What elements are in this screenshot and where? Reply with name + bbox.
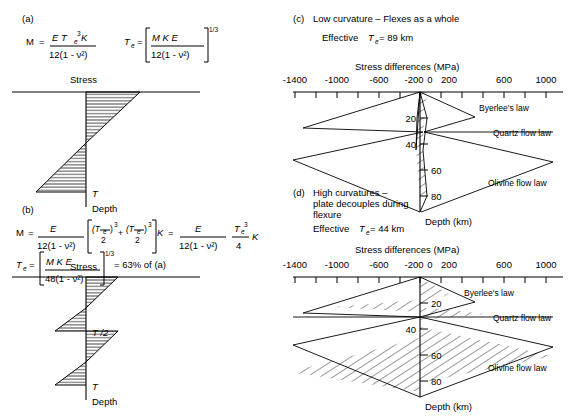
eq-a1-equals: = bbox=[39, 36, 45, 47]
eq-a2-equals: = bbox=[137, 36, 143, 47]
panel-d-quartz-label: Quartz flow law bbox=[493, 313, 552, 323]
panel-d-title-line3: flexure bbox=[313, 209, 342, 220]
eq-b1-frac2-den: 12(1 - ν²) bbox=[179, 240, 218, 251]
eq-b1-frac3-num-sub: e bbox=[241, 228, 245, 235]
eq-b1-term1-sub: e bbox=[103, 228, 107, 235]
eq-b1-frac1-den: 12(1 - ν²) bbox=[37, 240, 76, 251]
panel-d-axis-title: Stress differences (MPa) bbox=[355, 244, 459, 255]
panel-c-quartz-label: Quartz flow law bbox=[493, 128, 552, 138]
eq-a2-denominator: 12(1 - ν²) bbox=[151, 49, 190, 60]
eq-b1-frac2-num: E bbox=[195, 223, 202, 234]
panel-b-depth-label: Depth bbox=[92, 396, 117, 407]
panel-d-subtitle-value: = 44 km bbox=[370, 223, 404, 234]
panel-a-thickness-label: T bbox=[92, 188, 99, 199]
eq-b1-term2-sub: e bbox=[137, 228, 141, 235]
panel-a-stress-label: Stress bbox=[70, 74, 97, 85]
panel-c-depth-axis-label: Depth (km) bbox=[425, 216, 472, 227]
panel-c-tension-upper-envelope bbox=[303, 92, 423, 132]
panel-c-tag: (c) bbox=[293, 13, 304, 24]
eq-b1-term2-pow: 3 bbox=[148, 221, 152, 228]
panel-d-xtick-6: -200 bbox=[404, 259, 423, 270]
panel-d-title-line1: High curvatures – bbox=[313, 187, 388, 198]
panel-c-subtitle-symbol: T bbox=[368, 32, 375, 43]
panel-c-ytick-20: 20 bbox=[405, 113, 416, 124]
eq-a1-denominator: 12(1 - ν²) bbox=[49, 49, 88, 60]
eq-b1-term1-close: ) bbox=[110, 224, 113, 234]
panel-a-equation-2: T e = M K E 12(1 - ν²) 1/3 bbox=[124, 26, 218, 62]
panel-b-stress-label: Stress bbox=[70, 261, 97, 272]
panel-b-half-thickness-label: T /2 bbox=[92, 327, 109, 338]
eq-b1-frac1-num: E bbox=[50, 223, 57, 234]
eq-a1-num-tail: K bbox=[81, 32, 88, 43]
panel-c-subtitle-value: = 89 km bbox=[379, 32, 413, 43]
figure-svg: (a) M = E T e 3 K 12(1 - ν²) T e = M K E… bbox=[0, 0, 576, 418]
panel-d-hatch-olivine bbox=[420, 325, 556, 385]
panel-a-stress-diagram: Stress T Depth bbox=[12, 74, 200, 214]
eq-b1-term1: (T bbox=[92, 224, 101, 234]
panel-c-title: Low curvature – Flexes as a whole bbox=[313, 13, 459, 24]
eq-b1-plus: + bbox=[118, 228, 123, 238]
panel-c-ytick-40: 40 bbox=[405, 139, 416, 150]
panel-c-xtick-10: 600 bbox=[496, 74, 512, 85]
eq-b2-result: = 63% of (a) bbox=[114, 259, 166, 270]
panel-c-byerlee-envelope bbox=[420, 92, 475, 132]
eq-b1-term1-div: 2 bbox=[101, 235, 106, 245]
panel-d-hatch-tension-lower bbox=[288, 336, 422, 394]
eq-b1-frac3-den: 4 bbox=[236, 240, 241, 251]
panel-d-xtick-0: -1400 bbox=[283, 259, 307, 270]
eq-a2-lhs: T bbox=[124, 36, 131, 47]
panel-b-tag: (b) bbox=[22, 204, 34, 215]
eq-a2-exponent: 1/3 bbox=[209, 26, 218, 33]
eq-b2-exponent: 1/3 bbox=[105, 250, 114, 257]
panel-d-subtitle-symbol: T bbox=[359, 223, 366, 234]
panel-d-depth-axis-label: Depth (km) bbox=[425, 401, 472, 412]
eq-b1-equals: = bbox=[28, 227, 34, 238]
panel-c-x-ticklabels: -1400 -1000 -600 -200 0 200 600 1000 bbox=[283, 74, 557, 85]
eq-b1-frac3-num-sup: 3 bbox=[244, 221, 248, 228]
panel-b-equation-1: M = E 12(1 - ν²) (T e 2 ) 3 + (T e 2 ) 3… bbox=[16, 220, 259, 253]
panel-d-title-line2: plate decouples during bbox=[313, 198, 409, 209]
panel-a: (a) M = E T e 3 K 12(1 - ν²) T e = M K E… bbox=[12, 13, 218, 214]
eq-b2-lhs: T bbox=[16, 259, 23, 270]
panel-c-xtick-4: -600 bbox=[369, 74, 388, 85]
panel-d: (d) High curvatures – plate decouples du… bbox=[283, 187, 563, 412]
eq-a1-numerator: E T bbox=[52, 32, 68, 43]
panel-d-byerlee-label: Byerlee's law bbox=[464, 288, 515, 298]
eq-b1-equals2: = bbox=[168, 227, 174, 238]
panel-d-xtick-2: -1000 bbox=[325, 259, 349, 270]
panel-d-ytick-40: 40 bbox=[405, 324, 416, 335]
panel-a-tag: (a) bbox=[22, 13, 34, 24]
panel-d-olivine-label: Olivine flow law bbox=[488, 363, 547, 373]
panel-b-thickness-label: T bbox=[92, 381, 99, 392]
panel-a-depth-label: Depth bbox=[92, 203, 117, 214]
eq-b1-term2-close: ) bbox=[144, 224, 147, 234]
eq-a2-lhs-sub: e bbox=[131, 42, 135, 49]
panel-d-subtitle-prefix: Effective bbox=[313, 223, 349, 234]
panel-a-equation-1: M = E T e 3 K 12(1 - ν²) bbox=[26, 30, 96, 60]
eq-a1-num-sub: e bbox=[74, 38, 78, 45]
eq-b1-term2-div: 2 bbox=[135, 235, 140, 245]
panel-c-axis-title: Stress differences (MPa) bbox=[355, 61, 459, 72]
figure-root: (a) M = E T e 3 K 12(1 - ν²) T e = M K E… bbox=[0, 0, 576, 418]
eq-a2-numerator: M K E bbox=[152, 32, 179, 43]
eq-b1-k: K bbox=[157, 227, 164, 238]
panel-c-xtick-0: -1400 bbox=[283, 74, 307, 85]
panel-c-subtitle-prefix: Effective bbox=[322, 32, 358, 43]
panel-c-ytick-60: 60 bbox=[431, 165, 442, 176]
panel-c-byerlee-label: Byerlee's law bbox=[479, 103, 530, 113]
panel-b: (b) M = E 12(1 - ν²) (T e 2 ) 3 + (T e 2… bbox=[12, 204, 259, 407]
panel-d-xtick-8: 200 bbox=[441, 259, 457, 270]
panel-c-olivine-label: Olivine flow law bbox=[488, 178, 547, 188]
panel-c-xtick-12: 1000 bbox=[535, 74, 556, 85]
eq-b1-k2: K bbox=[252, 231, 259, 242]
eq-b2-lhs-sub: e bbox=[23, 265, 27, 272]
panel-c-ytick-80: 80 bbox=[431, 191, 442, 202]
panel-d-x-ticklabels: -1400 -1000 -600 -200 0 200 600 1000 bbox=[283, 259, 557, 270]
panel-c-xtick-7: 0 bbox=[427, 74, 432, 85]
panel-d-xtick-4: -600 bbox=[369, 259, 388, 270]
eq-b2-numerator: M K E bbox=[46, 256, 73, 267]
eq-b2-equals: = bbox=[29, 259, 35, 270]
panel-d-xtick-7: 0 bbox=[427, 259, 432, 270]
eq-b1-lhs: M bbox=[16, 227, 24, 238]
panel-d-xtick-12: 1000 bbox=[535, 259, 556, 270]
